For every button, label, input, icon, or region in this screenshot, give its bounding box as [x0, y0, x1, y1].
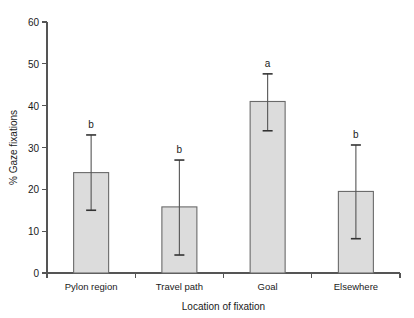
- y-axis-title: % Gaze fixations: [8, 110, 19, 185]
- x-category-label-3: Elsewhere: [334, 281, 378, 292]
- x-category-label-0: Pylon region: [65, 281, 118, 292]
- y-tick-label-50: 50: [28, 59, 40, 70]
- significance-label-3: b: [353, 129, 359, 140]
- y-tick-label-60: 60: [28, 17, 40, 28]
- x-category-label-2: Goal: [258, 281, 278, 292]
- y-tick-label-0: 0: [33, 268, 39, 279]
- chart-figure: 60 50 40 30 20 10 0 bbab Pylon region Tr…: [0, 0, 414, 318]
- y-tick-label-30: 30: [28, 143, 40, 154]
- significance-label-0: b: [88, 119, 94, 130]
- x-category-label-1: Travel path: [156, 281, 203, 292]
- significance-label-2: a: [265, 58, 271, 69]
- y-tick-label-10: 10: [28, 226, 40, 237]
- x-axis-title: Location of fixation: [182, 301, 265, 312]
- significance-label-1: b: [177, 144, 183, 155]
- y-tick-label-20: 20: [28, 184, 40, 195]
- y-tick-label-40: 40: [28, 101, 40, 112]
- bar-chart-svg: 60 50 40 30 20 10 0 bbab Pylon region Tr…: [0, 0, 414, 318]
